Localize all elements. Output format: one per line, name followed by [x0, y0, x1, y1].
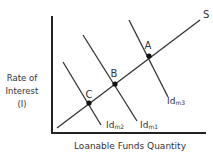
point-b-label: B	[111, 68, 118, 79]
demand-label-m1: Idm1	[140, 120, 158, 130]
demand-label-m3: Idm3	[167, 96, 185, 106]
y-axis-label-line3: (I)	[17, 99, 26, 109]
demand-label-m2: Idm2	[106, 120, 124, 130]
y-axis-label-line2: Interest	[6, 86, 39, 96]
supply-label: S	[203, 9, 209, 20]
point-b	[112, 81, 117, 86]
loanable-funds-diagram: S Idm3 Idm1 Idm2 A B C Rate of Interest …	[0, 0, 213, 152]
supply-curve	[57, 20, 200, 128]
point-c-label: C	[86, 89, 93, 100]
x-axis-label: Loanable Funds Quantity	[74, 141, 187, 151]
y-axis-label-line1: Rate of	[7, 73, 38, 83]
demand-curve-m2	[63, 62, 101, 125]
point-a-label: A	[145, 40, 152, 51]
point-c	[86, 100, 91, 105]
point-a	[146, 53, 151, 58]
